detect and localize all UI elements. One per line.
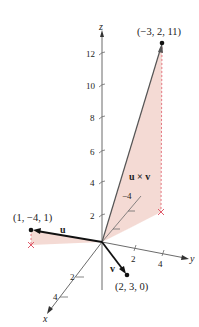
z-tick-label-10: 10: [86, 81, 96, 91]
y-tick-label-2: 2: [131, 254, 136, 264]
z-tick-label-4: 4: [90, 178, 95, 188]
cross-product-point: [160, 41, 165, 46]
z-axis-label: z: [98, 21, 103, 32]
cross-product-diagram: z y x 2 4 6 8 10 12 2 4 2 4 −4 (−3, 2, 1…: [0, 0, 199, 327]
u-point-label: (1, −4, 1): [13, 212, 53, 224]
y-axis-arrow-icon: [181, 255, 189, 260]
u-point: [29, 228, 34, 233]
z-tick-label-2: 2: [90, 211, 95, 221]
y-ticks: [134, 245, 164, 256]
x-axis: [50, 242, 102, 310]
v-point-label: (2, 3, 0): [115, 281, 149, 293]
x-tick-label-4: 4: [53, 292, 58, 302]
neg-y-tick-label: −4: [122, 191, 132, 201]
y-tick-label-4: 4: [158, 259, 163, 269]
y-axis-label: y: [189, 253, 195, 264]
x-axis-label: x: [42, 313, 48, 324]
u-label: u: [60, 224, 66, 235]
x-tick-label-2: 2: [70, 272, 75, 282]
z-tick-label-8: 8: [90, 113, 95, 123]
cross-product-label: u × v: [129, 171, 150, 182]
v-label: v: [110, 263, 115, 274]
cross-product-point-label: (−3, 2, 11): [137, 26, 182, 38]
z-tick-label-12: 12: [86, 49, 95, 59]
z-tick-label-6: 6: [90, 147, 95, 157]
v-point: [125, 273, 130, 278]
y-axis: [102, 242, 185, 258]
